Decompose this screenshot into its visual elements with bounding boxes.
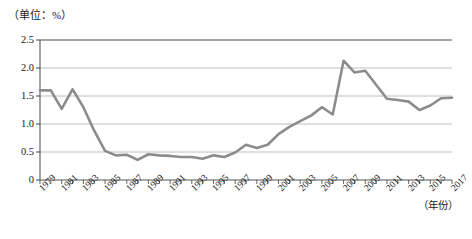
y-tick-label: 0	[8, 175, 34, 185]
y-tick-label: 1.0	[8, 119, 34, 129]
y-axis-labels: 00.51.01.52.02.5	[6, 0, 34, 239]
gridlines	[40, 40, 452, 152]
axes	[40, 40, 452, 180]
chart-canvas	[0, 0, 472, 239]
y-tick-label: 0.5	[8, 147, 34, 157]
y-tick-label: 2.0	[8, 63, 34, 73]
y-tick-label: 1.5	[8, 91, 34, 101]
x-axis-title: （年份）	[418, 197, 458, 212]
y-tick-marks	[36, 40, 40, 180]
y-tick-label: 2.5	[8, 35, 34, 45]
data-series-line	[40, 61, 452, 160]
line-chart: （单位：%） 00.51.01.52.02.5 1979198119831985…	[0, 0, 472, 239]
